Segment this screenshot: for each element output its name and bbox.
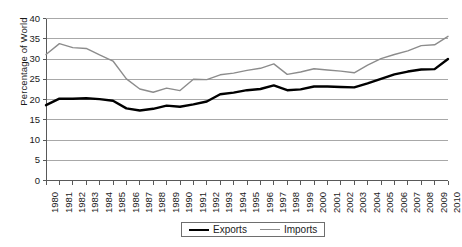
x-tick-label: 1988 bbox=[157, 191, 167, 212]
x-tick-label: 2008 bbox=[425, 191, 435, 212]
x-tick-label: 1993 bbox=[224, 191, 234, 212]
x-tick-label: 2006 bbox=[399, 191, 409, 212]
x-tick-label: 2005 bbox=[385, 191, 395, 212]
legend-label-exports: Exports bbox=[213, 225, 247, 235]
x-tick-label: 2007 bbox=[412, 191, 422, 212]
legend-swatch-exports-icon bbox=[189, 229, 209, 231]
x-tick-label: 1982 bbox=[77, 191, 87, 212]
x-tick-label: 1985 bbox=[117, 191, 127, 212]
x-tick-label: 1992 bbox=[211, 191, 221, 212]
x-tick-label: 2001 bbox=[332, 191, 342, 212]
legend-label-imports: Imports bbox=[284, 225, 317, 235]
x-tick-label: 2010 bbox=[452, 191, 462, 212]
x-tick-label: 1989 bbox=[171, 191, 181, 212]
x-tick-label: 2000 bbox=[318, 191, 328, 212]
x-tick-label: 1986 bbox=[131, 191, 141, 212]
x-tick-label: 2003 bbox=[358, 191, 368, 212]
legend-item-imports: Imports bbox=[260, 225, 317, 235]
x-tick-label: 2004 bbox=[372, 191, 382, 212]
x-tick-label: 1998 bbox=[291, 191, 301, 212]
x-tick-label: 1999 bbox=[305, 191, 315, 212]
chart-legend: Exports Imports bbox=[181, 222, 325, 237]
x-tick-label: 2002 bbox=[345, 191, 355, 212]
legend-swatch-imports-icon bbox=[260, 229, 280, 230]
x-tick-label: 1997 bbox=[278, 191, 288, 212]
x-tick-label: 1984 bbox=[104, 191, 114, 212]
x-tick-label: 1981 bbox=[64, 191, 74, 212]
x-tick-label: 1987 bbox=[144, 191, 154, 212]
x-tick-label: 1994 bbox=[238, 191, 248, 212]
x-tick-label: 1991 bbox=[198, 191, 208, 212]
x-tick-label: 1980 bbox=[50, 191, 60, 212]
x-tick-label: 1990 bbox=[184, 191, 194, 212]
legend-item-exports: Exports bbox=[189, 225, 247, 235]
x-tick-label: 1995 bbox=[251, 191, 261, 212]
x-tick-label: 1996 bbox=[265, 191, 275, 212]
x-tick-label: 1983 bbox=[90, 191, 100, 212]
x-tick-label: 2009 bbox=[439, 191, 449, 212]
